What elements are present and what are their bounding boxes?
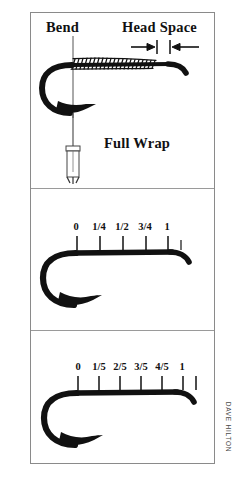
scale-fifths-label-0: 0 (75, 362, 80, 373)
credit-text: DAVE HILTON (225, 402, 232, 453)
scale-quarters-label-0: 0 (73, 222, 78, 233)
panel-divider-1 (31, 188, 214, 189)
label-head-space: Head Space (122, 20, 197, 35)
scale-fifths-label-4: 4/5 (155, 362, 168, 373)
label-bend: Bend (46, 20, 79, 35)
credit-container: DAVE HILTON (222, 392, 234, 462)
panel-divider-2 (31, 330, 214, 331)
scale-fifths-label-3: 3/5 (134, 362, 147, 373)
scale-quarters-label-4: 1 (164, 222, 169, 233)
scale-quarters-label-2: 1/2 (115, 222, 128, 233)
scale-fifths-label-5: 1 (179, 362, 184, 373)
label-full-wrap: Full Wrap (104, 136, 170, 151)
figure-border (30, 12, 215, 464)
scale-fifths-label-2: 2/5 (113, 362, 126, 373)
scale-quarters-label-3: 3/4 (138, 222, 151, 233)
scale-quarters-label-1: 1/4 (92, 222, 105, 233)
hook-diagram-figure: Bend Head Space Full Wrap 0 1/4 1/2 3/4 … (0, 0, 240, 495)
scale-fifths-label-1: 1/5 (92, 362, 105, 373)
